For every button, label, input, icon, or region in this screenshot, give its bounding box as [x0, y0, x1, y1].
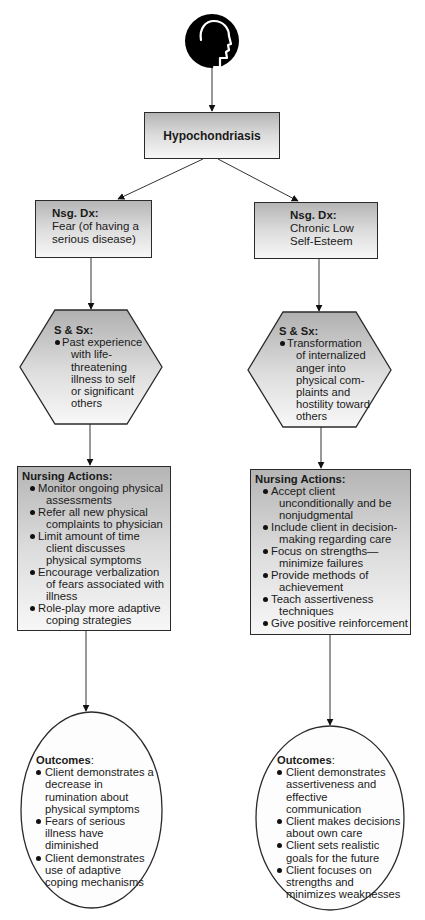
- nursing-action-item: Encourage verbalization of fears associa…: [22, 566, 168, 602]
- outcomes-text-right: Outcomes: Client demonstrates assertiven…: [277, 754, 401, 900]
- signs-line: Transformation: [287, 337, 395, 349]
- signs-text-right: S & Sx: Transformation of internalized a…: [279, 325, 395, 423]
- nursing-action-item: Focus on strengths—minimize failures: [255, 545, 408, 569]
- signs-line: with life-: [71, 348, 164, 360]
- root-title: Hypochondriasis: [163, 129, 260, 143]
- nursing-action-item: Accept client unconditionally and be non…: [255, 485, 408, 521]
- outcome-item: Client demonstrates a decrease in rumina…: [36, 766, 154, 815]
- bullet-icon: [30, 606, 35, 611]
- signs-line: physical com-: [296, 374, 395, 386]
- outcome-item: Client makes decisions about own care: [277, 815, 401, 839]
- nursing-action-item: Refer all new physical complaints to phy…: [22, 506, 168, 530]
- signs-line: Past experience: [62, 336, 164, 348]
- bullet-icon: [263, 621, 268, 626]
- diagnosis-heading: Nsg. Dx:: [52, 207, 151, 220]
- bullet-icon: [263, 525, 268, 530]
- outcome-item: Client demonstrates use of adaptive copi…: [36, 852, 154, 889]
- bullet-icon: [30, 486, 35, 491]
- nursing-action-item: Limit amount of time client discusses ph…: [22, 530, 168, 566]
- nursing-actions-box-left: Nursing Actions: Monitor ongoing physica…: [17, 466, 171, 631]
- diagnosis-line: serious disease): [52, 233, 151, 246]
- signs-line: plaints and: [296, 386, 395, 398]
- bullet-icon: [30, 510, 35, 515]
- bullet-icon: [280, 341, 285, 346]
- diagnosis-line: Fear (of having a: [52, 220, 151, 233]
- nursing-actions-box-right: Nursing Actions: Accept client unconditi…: [250, 469, 411, 635]
- signs-line: of internalized: [296, 349, 395, 361]
- signs-line: others: [296, 410, 395, 422]
- outcomes-heading: Outcomes:: [277, 754, 401, 766]
- bullet-icon: [55, 340, 60, 345]
- bullet-icon: [30, 570, 35, 575]
- diagnosis-box-left: Nsg. Dx: Fear (of having a serious disea…: [35, 200, 152, 258]
- outcome-item: Client sets realistic goals for the futu…: [277, 839, 401, 863]
- diagnosis-line: Chronic Low: [290, 222, 377, 235]
- signs-line: illness to self: [71, 373, 164, 385]
- nursing-action-item: Include client in decision-making regard…: [255, 521, 408, 545]
- outcome-item: Fears of serious illness have diminished: [36, 815, 154, 852]
- diagnosis-line: Self-Esteem: [290, 235, 377, 248]
- bullet-icon: [263, 549, 268, 554]
- outcome-item: Client demonstrates assertiveness and ef…: [277, 766, 401, 815]
- outcomes-heading: Outcomes:: [36, 754, 154, 766]
- bullet-icon: [263, 573, 268, 578]
- diagnosis-box-right: Nsg. Dx: Chronic Low Self-Esteem: [254, 202, 378, 259]
- signs-line: anger into: [296, 362, 395, 374]
- signs-line: others: [71, 397, 164, 409]
- outcome-item: Client focuses on strengths and minimize…: [277, 864, 401, 901]
- head-profile-icon: [185, 14, 239, 68]
- signs-line: hostility toward: [296, 398, 395, 410]
- signs-line: or significant: [71, 385, 164, 397]
- nursing-action-item: Teach assertiveness techniques: [255, 593, 408, 617]
- bullet-icon: [30, 534, 35, 539]
- signs-heading: S & Sx:: [54, 324, 164, 336]
- signs-line: threatening: [71, 361, 164, 373]
- nursing-actions-heading: Nursing Actions:: [22, 470, 168, 482]
- signs-text-left: S & Sx: Past experience with life- threa…: [54, 324, 164, 409]
- root-node: Hypochondriasis: [144, 112, 280, 159]
- bullet-icon: [263, 489, 268, 494]
- nursing-actions-heading: Nursing Actions:: [255, 473, 408, 485]
- outcomes-text-left: Outcomes: Client demonstrates a decrease…: [36, 754, 154, 888]
- diagnosis-heading: Nsg. Dx:: [290, 209, 377, 222]
- nursing-action-item: Provide methods of achievement: [255, 569, 408, 593]
- nursing-action-item: Monitor ongoing physical assessments: [22, 482, 168, 506]
- nursing-action-item: Give positive reinforcement: [255, 617, 408, 629]
- signs-heading: S & Sx:: [279, 325, 395, 337]
- bullet-icon: [263, 597, 268, 602]
- nursing-action-item: Role-play more adaptive coping strategie…: [22, 602, 168, 626]
